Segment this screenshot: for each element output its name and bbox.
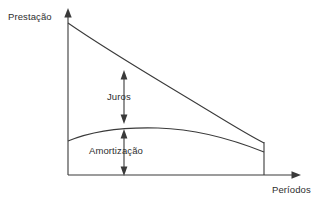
x-axis-arrow-icon	[292, 171, 302, 178]
juros-arrow-down-icon	[121, 115, 128, 125]
prestacao-curve	[68, 23, 264, 143]
diagram-canvas	[0, 0, 325, 204]
amortization-diagram: Prestação Períodos Juros Amortização	[0, 0, 325, 204]
juros-arrow-up-icon	[121, 70, 128, 80]
y-axis-arrow-icon	[64, 8, 71, 18]
x-axis-label: Períodos	[272, 184, 311, 195]
y-axis-label: Prestação	[8, 11, 52, 22]
amortizacao-arrow-up-icon	[121, 129, 128, 139]
juros-label: Juros	[107, 91, 131, 102]
amortizacao-label: Amortização	[89, 145, 143, 156]
